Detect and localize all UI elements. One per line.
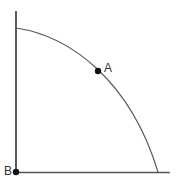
point-a-label: A [104, 61, 112, 75]
ppf-diagram: A B [0, 0, 178, 180]
point-b-label: B [4, 164, 12, 178]
point-b [13, 169, 19, 175]
point-a [95, 68, 101, 74]
frontier-curve [16, 28, 158, 172]
